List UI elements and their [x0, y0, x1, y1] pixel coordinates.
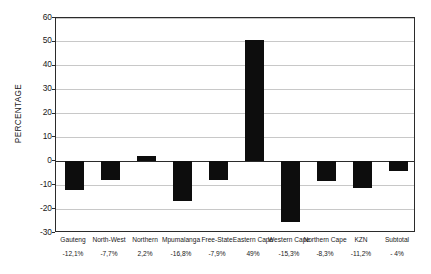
- gridline-20: [56, 113, 414, 114]
- gridline-50: [56, 41, 414, 42]
- x-category-label: Subtotal: [373, 235, 421, 244]
- y-tick-label: 60: [12, 12, 52, 22]
- caption-strip: [55, 268, 415, 274]
- gridline-40: [56, 65, 414, 66]
- y-tick-label: 0: [12, 155, 52, 165]
- x-axis-labels: Gauteng-12,1%North-West-7,7%Northern2,2%…: [55, 235, 415, 269]
- bar: [137, 156, 156, 161]
- gridline-30: [56, 89, 414, 90]
- bar: [65, 161, 84, 190]
- bar: [353, 161, 372, 188]
- y-tick-label: -20: [12, 203, 52, 213]
- y-tick-label: 10: [12, 131, 52, 141]
- plot-area: [55, 17, 415, 232]
- bar: [173, 161, 192, 201]
- y-tick-mark: [52, 232, 55, 233]
- bar: [317, 161, 336, 181]
- gridline-60: [56, 18, 414, 19]
- y-tick-label: 20: [12, 107, 52, 117]
- bar: [281, 161, 300, 221]
- gridline-10: [56, 137, 414, 138]
- x-value-label: - 4%: [373, 249, 421, 258]
- chart-figure: PERCENTAGE 6050403020100-10-20-30 Gauten…: [0, 0, 431, 274]
- gridline-neg20: [56, 209, 414, 210]
- y-tick-label: 40: [12, 59, 52, 69]
- bar: [209, 161, 228, 180]
- y-tick-label: -10: [12, 179, 52, 189]
- bar: [101, 161, 120, 179]
- y-tick-label: 30: [12, 83, 52, 93]
- bar: [389, 161, 408, 171]
- x-axis-column: Subtotal- 4%: [373, 235, 421, 258]
- bar: [245, 40, 264, 162]
- y-tick-label: 50: [12, 35, 52, 45]
- y-tick-label: -30: [12, 227, 52, 237]
